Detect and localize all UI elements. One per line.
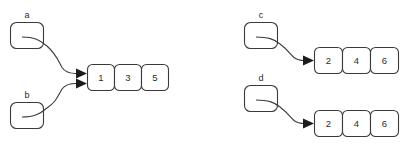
arrow-d-to-list-bottom-right [280,107,314,129]
list-top-right-cell-2-value: 6 [382,55,387,66]
list-cell[interactable]: 6 [371,111,399,137]
linked-list-bottom-right: 2 4 6 [315,111,399,137]
pointer-box-d[interactable] [245,86,278,112]
list-bottom-right-cell-2-value: 6 [382,118,387,129]
linked-list-left: 1 3 5 [88,65,169,91]
list-bottom-right-cell-0-value: 2 [326,118,331,129]
list-bottom-right-cell-1-value: 4 [354,118,359,129]
linked-list-top-right: 2 4 6 [315,48,399,74]
arrow-d-curve [280,107,305,124]
pointer-diagram: a b 1 3 [0,0,407,148]
arrow-c-to-list-top-right [280,44,314,66]
pointer-var-c[interactable]: c [245,10,281,49]
list-cell[interactable]: 1 [88,65,115,91]
pointer-label-d: d [258,73,263,83]
list-cell[interactable]: 4 [343,111,371,137]
pointer-label-b: b [24,90,29,100]
list-top-right-cell-1-value: 4 [354,55,359,66]
arrow-b-head [76,79,87,89]
list-cell[interactable]: 2 [315,111,343,137]
list-cell[interactable]: 6 [371,48,399,74]
arrow-d-head [303,119,314,129]
pointer-box-c[interactable] [245,23,278,49]
pointer-box-b[interactable] [11,103,44,129]
list-left-cell-0-value: 1 [98,72,103,83]
arrow-a-head [76,69,87,79]
diagram-canvas: a b 1 3 [0,0,407,148]
list-left-cell-2-value: 5 [152,72,157,83]
list-cell[interactable]: 3 [115,65,142,91]
arrow-c-curve [280,44,305,61]
arrow-c-head [303,56,314,66]
list-cell[interactable]: 2 [315,48,343,74]
list-top-right-cell-0-value: 2 [326,55,331,66]
arrow-b-to-list-left [47,79,87,109]
pointer-var-d[interactable]: d [245,73,281,112]
arrow-b-curve [47,84,76,109]
pointer-box-a[interactable] [11,23,44,49]
pointer-var-a[interactable]: a [11,10,48,49]
arrow-a-to-list-left [47,46,87,79]
pointer-label-c: c [259,10,264,20]
list-cell[interactable]: 5 [142,65,169,91]
arrow-a-curve [47,46,76,74]
pointer-var-b[interactable]: b [11,90,48,129]
list-cell[interactable]: 4 [343,48,371,74]
pointer-label-a: a [24,10,29,20]
list-left-cell-1-value: 3 [125,72,130,83]
